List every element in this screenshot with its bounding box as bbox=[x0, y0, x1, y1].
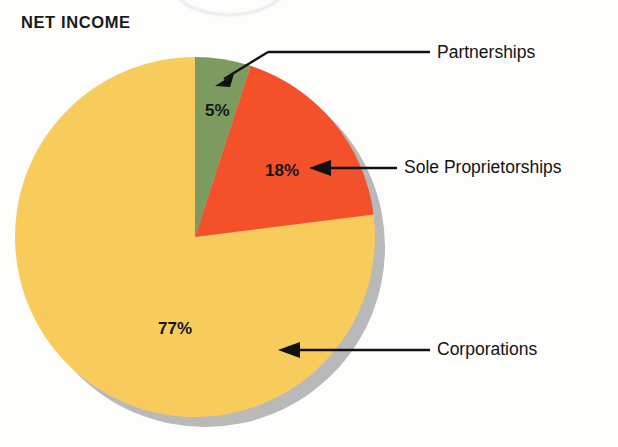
callout-label-partnerships: Partnerships bbox=[437, 42, 535, 63]
callout-label-sole-proprietorships: Sole Proprietorships bbox=[404, 157, 562, 178]
net-income-pie-figure: NET INCOME 5% 18% 77% Partnerships bbox=[0, 0, 618, 447]
slice-value-corporations: 77% bbox=[158, 319, 192, 339]
callout-label-corporations: Corporations bbox=[437, 339, 537, 360]
slice-value-partnerships: 5% bbox=[205, 101, 230, 121]
slice-value-sole-proprietorships: 18% bbox=[265, 161, 299, 181]
pie-chart-graphic bbox=[0, 0, 618, 447]
